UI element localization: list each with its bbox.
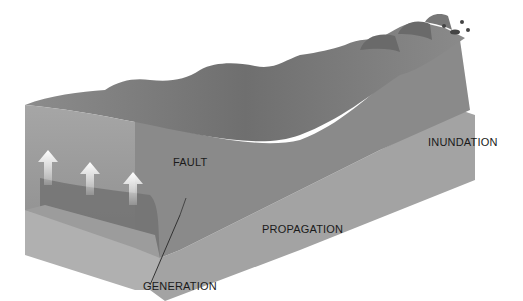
propagation-label: PROPAGATION <box>262 223 343 235</box>
fault-label: FAULT <box>173 156 207 168</box>
generation-label: GENERATION <box>143 280 217 292</box>
inundation-label: INUNDATION <box>428 136 498 148</box>
tsunami-diagram <box>0 0 523 301</box>
